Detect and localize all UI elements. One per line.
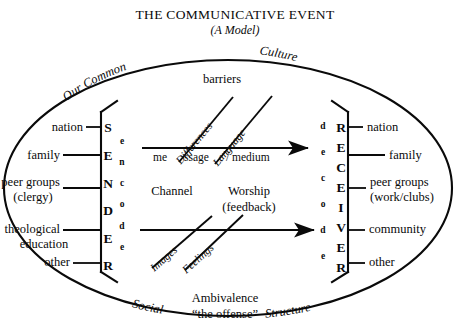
receiver-decode-letter-3: o bbox=[321, 200, 326, 210]
feedback-heading: Worship bbox=[228, 185, 270, 198]
sender-encode-letter-5: e bbox=[120, 243, 124, 253]
diagram-vector-layer: Our Common Culture Social Structure bbox=[0, 0, 471, 329]
message-segment-medium: / medium bbox=[226, 152, 270, 164]
page-subtitle: (A Model) bbox=[211, 24, 260, 36]
receiver-letter-2: C bbox=[336, 161, 346, 175]
svg-text:Social: Social bbox=[131, 296, 165, 316]
receiver-decode-letter-4: d bbox=[320, 226, 325, 236]
receiver-output-community: community bbox=[369, 223, 426, 236]
ring-text-top-left: Our Common bbox=[60, 59, 128, 103]
receiver-letter-7: R bbox=[336, 261, 346, 275]
sender-letter-0: S bbox=[104, 121, 112, 135]
receiver-letter-0: R bbox=[336, 121, 346, 135]
receiver-letter-4: I bbox=[338, 201, 343, 215]
footer-the-offense: “the offense” bbox=[192, 308, 258, 321]
barriers-heading: barriers bbox=[203, 73, 241, 86]
sender-letter-4: E bbox=[103, 232, 112, 246]
communicative-event-diagram: Our Common Culture Social Structure THE … bbox=[0, 0, 471, 329]
sender-input-peer-groups-detail: (clergy) bbox=[13, 191, 52, 204]
receiver-letter-5: V bbox=[336, 221, 346, 235]
receiver-output-other: other bbox=[369, 256, 395, 269]
receiver-letter-3: E bbox=[336, 181, 345, 195]
receiver-letter-6: E bbox=[336, 241, 345, 255]
sender-letter-5: R bbox=[103, 259, 113, 273]
sender-encode-letter-2: c bbox=[120, 179, 124, 189]
receiver-letter-1: E bbox=[336, 141, 345, 155]
sender-encode-letter-3: o bbox=[120, 200, 125, 210]
channel-heading: Channel bbox=[151, 185, 193, 198]
message-segment-me: me bbox=[153, 152, 167, 164]
svg-text:Structure: Structure bbox=[264, 300, 312, 321]
sender-letter-2: N bbox=[103, 177, 113, 191]
receiver-output-peer-groups-detail: (work/clubs) bbox=[370, 191, 434, 204]
sender-encode-letter-1: n bbox=[119, 158, 124, 168]
sender-input-theological: theological bbox=[4, 223, 60, 236]
sender-encode-letter-0: e bbox=[120, 137, 124, 147]
sender-letter-3: D bbox=[103, 204, 113, 218]
receiver-decode-letter-2: c bbox=[321, 174, 325, 184]
sender-input-education: education bbox=[20, 238, 69, 251]
ring-text-bottom-left: Social bbox=[131, 296, 165, 316]
sender-input-other: other bbox=[44, 256, 70, 269]
sender-input-peer-groups: peer groups bbox=[1, 176, 60, 189]
footer-ambivalence: Ambivalence bbox=[192, 292, 259, 305]
sender-input-nation: nation bbox=[52, 121, 83, 134]
page-title: THE COMMUNICATIVE EVENT bbox=[136, 8, 335, 22]
svg-text:Our Common: Our Common bbox=[60, 59, 128, 103]
sender-encode-letter-4: d bbox=[119, 222, 124, 232]
sender-letter-1: E bbox=[103, 149, 112, 163]
receiver-output-nation: nation bbox=[367, 121, 398, 134]
feedback-heading-detail: (feedback) bbox=[222, 201, 275, 214]
ring-text-bottom-right: Structure bbox=[264, 300, 312, 321]
receiver-decode-letter-1: e bbox=[321, 148, 325, 158]
receiver-output-peer-groups: peer groups bbox=[370, 176, 429, 189]
receiver-decode-letter-0: d bbox=[320, 122, 325, 132]
receiver-decode-letter-5: e bbox=[321, 252, 325, 262]
sender-input-family: family bbox=[27, 149, 60, 162]
receiver-output-family: family bbox=[389, 149, 422, 162]
